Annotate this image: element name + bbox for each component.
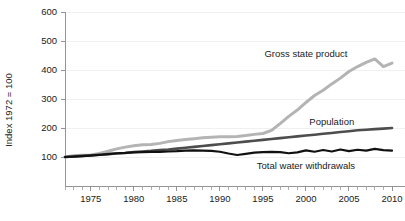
line-chart: 100200300400500600 197519801985199019952… (0, 0, 405, 221)
x-axis-ticks (65, 186, 392, 191)
series-label-total-water-withdrawals: Total water withdrawals (257, 160, 355, 171)
y-axis-title: Index 1972 = 100 (3, 73, 14, 147)
y-tick-label-500: 500 (41, 35, 57, 46)
x-tick-label-1995: 1995 (252, 193, 273, 204)
data-series-lines (65, 59, 392, 157)
y-axis-ticks (61, 12, 65, 157)
x-tick-label-1975: 1975 (80, 193, 101, 204)
series-label-population: Population (309, 116, 354, 127)
series-label-gross-state-product: Gross state product (264, 48, 347, 59)
x-tick-label-2000: 2000 (295, 193, 316, 204)
y-tick-label-300: 300 (41, 93, 57, 104)
x-tick-label-2010: 2010 (381, 193, 402, 204)
x-axis-tick-labels: 19751980198519901995200020052010 (80, 193, 402, 204)
x-tick-label-1985: 1985 (166, 193, 187, 204)
y-tick-label-200: 200 (41, 122, 57, 133)
y-tick-label-600: 600 (41, 6, 57, 17)
x-tick-label-2005: 2005 (338, 193, 359, 204)
y-tick-label-100: 100 (41, 151, 57, 162)
x-tick-label-1990: 1990 (209, 193, 230, 204)
y-axis-tick-labels: 100200300400500600 (41, 6, 57, 162)
chart-container: 100200300400500600 197519801985199019952… (0, 0, 405, 221)
x-tick-label-1980: 1980 (123, 193, 144, 204)
y-tick-label-400: 400 (41, 64, 57, 75)
